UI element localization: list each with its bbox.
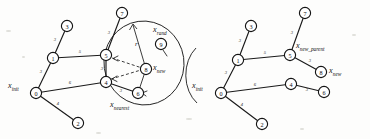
figure-root: 0 1 2 3 4 5 6 [0, 0, 370, 139]
node-label: 8 [144, 66, 147, 73]
node-right-5: 5 [284, 49, 295, 60]
edge-0-2 [36, 93, 78, 123]
edge-weight-1-5: 5 [79, 49, 82, 54]
edge-r-1-5 [238, 55, 290, 60]
node-label: 0 [34, 90, 37, 97]
candidate-edge-4-8 [111, 70, 141, 79]
edge-weight-5-7: 3 [108, 30, 111, 35]
node-label: 1 [236, 57, 239, 64]
node-left-8: 8 [140, 63, 151, 74]
node-label: 5 [104, 52, 107, 59]
edge-weight-0-2: 4 [57, 101, 60, 106]
label-radius-r: r [135, 40, 138, 48]
node-left-3: 3 [61, 20, 72, 31]
node-label: 2 [76, 120, 79, 127]
node-right-1: 1 [232, 54, 243, 65]
node-right-0: 0 [215, 87, 226, 98]
node-label: 6 [322, 89, 325, 96]
node-label: 8 [319, 69, 322, 76]
node-right-2: 2 [256, 118, 267, 129]
edge-weight-0-1: 3 [40, 69, 43, 74]
edge-weight-0-4: 6 [69, 80, 72, 85]
node-label: 4 [289, 81, 292, 88]
candidate-arrowhead-b [112, 76, 117, 82]
edge-1-5 [53, 55, 106, 58]
panel-rewired-tree: 0 1 2 3 4 5 6 [186, 7, 330, 129]
node-label: 7 [120, 10, 123, 17]
node-right-3: 3 [245, 20, 256, 31]
label-subscript: init [12, 86, 19, 92]
node-left-9: 9 [155, 38, 166, 49]
node-right-4: 4 [285, 78, 296, 89]
scan-speck [186, 118, 192, 120]
label-x-rand: xrand [153, 26, 167, 36]
scan-speck [96, 132, 101, 134]
edge-weight-r-0-2: 4 [241, 102, 244, 107]
node-left-4: 4 [100, 76, 111, 87]
scan-speck [6, 30, 11, 32]
scan-speck [22, 56, 25, 58]
label-subscript: init [196, 86, 203, 92]
node-label: 4 [104, 79, 107, 86]
node-left-0: 0 [30, 87, 41, 98]
scan-speck [300, 128, 304, 130]
node-label: 7 [303, 10, 306, 17]
node-right-7: 7 [299, 7, 310, 18]
node-label: 3 [249, 23, 252, 30]
label-subscript: new [157, 68, 166, 74]
node-label: 0 [219, 90, 222, 97]
edge-weight-r-5-8: 3 [309, 58, 312, 63]
node-label: 1 [51, 55, 54, 62]
edge-weight-r-0-1: 3 [225, 70, 228, 75]
edge-weight-r-1-5: 5 [264, 50, 267, 55]
label-subscript: new_parent [300, 46, 325, 52]
label-x-new-left: xnew [153, 64, 165, 74]
edge-weight-r-5-7: 3 [291, 30, 294, 35]
node-left-6: 6 [132, 87, 143, 98]
candidate-arrowhead-a [113, 56, 118, 61]
diagram-canvas: 0 1 2 3 4 5 6 [0, 0, 370, 139]
edge-weight-4-6: 3 [120, 88, 123, 93]
edge-r-0-2 [221, 93, 262, 124]
edge-weight-r-1-3: 3 [239, 38, 242, 43]
node-left-2: 2 [72, 117, 83, 128]
edge-weight-r-0-4: 6 [254, 82, 257, 87]
label-subscript: new [333, 71, 342, 77]
region-arc-fragment [186, 48, 197, 103]
node-left-5: 5 [100, 49, 111, 60]
label-x-init-right: xinit [192, 82, 203, 92]
label-x-new-right: xnew [329, 67, 341, 77]
node-left-1: 1 [47, 52, 58, 63]
label-x-init-left: xinit [8, 82, 19, 92]
label-subscript: rand [157, 30, 167, 36]
leader-line-x-rand [163, 50, 167, 56]
node-label: 6 [136, 90, 139, 97]
label-x-new-parent: xnew_parent [296, 42, 325, 52]
node-label: 5 [288, 52, 291, 59]
candidate-edge-5-8 [112, 58, 142, 68]
node-label: 9 [159, 41, 162, 48]
node-left-7: 7 [116, 7, 127, 18]
edge-weight-4-5: 3 [101, 66, 104, 71]
node-label: 3 [65, 23, 68, 30]
node-right-6: 6 [318, 86, 329, 97]
label-subscript: nearest [114, 105, 129, 111]
edge-weight-1-3: 3 [54, 37, 57, 42]
node-right-8: 8 [315, 66, 326, 77]
node-label: 2 [260, 121, 263, 128]
scan-speck [352, 34, 356, 36]
label-x-nearest: xnearest [110, 101, 129, 111]
